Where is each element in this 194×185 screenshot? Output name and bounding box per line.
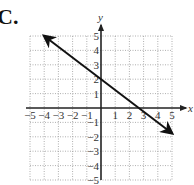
y-axis-label: y [97, 11, 103, 23]
y-tick-label: 3 [94, 59, 100, 71]
x-tick-label: −2 [67, 109, 79, 121]
x-tick-label: −4 [38, 109, 50, 121]
x-tick-label: 5 [169, 109, 175, 121]
x-axis-label: x [187, 102, 193, 114]
x-tick-label: −3 [53, 109, 65, 121]
y-tick-label: −1 [87, 116, 99, 128]
y-tick-label: −4 [87, 160, 99, 172]
y-tick-label: 1 [94, 88, 100, 100]
coordinate-plane: xy−5−4−3−2−11234554321−1−2−3−4−5 [0, 0, 194, 185]
y-tick-label: 4 [94, 44, 100, 56]
x-tick-label: −5 [24, 109, 36, 121]
y-tick-label: −5 [87, 174, 99, 185]
y-tick-label: −2 [87, 131, 99, 143]
x-tick-label: 4 [155, 109, 161, 121]
y-tick-label: 5 [94, 30, 100, 42]
x-tick-label: 2 [127, 109, 133, 121]
y-tick-label: −3 [87, 145, 99, 157]
x-tick-label: 1 [112, 109, 118, 121]
